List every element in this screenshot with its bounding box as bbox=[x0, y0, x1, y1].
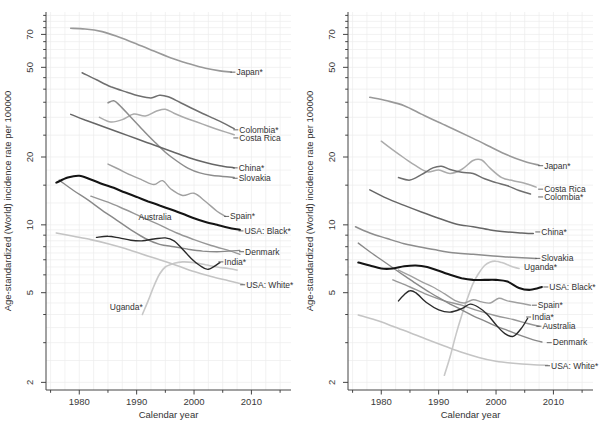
chart-panel-left: 25102050701980199020002010Calendar yearA… bbox=[0, 0, 302, 435]
series-label-slovakia: Slovakia bbox=[541, 253, 573, 263]
series-label-australia: Australia bbox=[542, 321, 575, 331]
y-tick-label: 20 bbox=[24, 152, 35, 163]
series-label-denmark: Denmark bbox=[245, 247, 280, 257]
x-tick-label: 1980 bbox=[371, 396, 392, 407]
x-tick-label: 1980 bbox=[69, 396, 90, 407]
series-label-spain: Spain* bbox=[230, 211, 256, 221]
x-tick-label: 1990 bbox=[428, 396, 449, 407]
right-chart: 25102050701980199020002010Calendar yearA… bbox=[302, 0, 605, 435]
series-label-uganda: Uganda* bbox=[524, 262, 558, 272]
series-label-japan: Japan* bbox=[544, 161, 571, 171]
series-line-china bbox=[71, 114, 235, 167]
series-label-china: China* bbox=[239, 163, 265, 173]
series-label-colombia: Colombia* bbox=[239, 125, 279, 135]
y-axis-title: Age-standardized (World) incidence rate … bbox=[2, 91, 13, 312]
y-tick-label: 50 bbox=[24, 62, 35, 73]
y-tick-label: 10 bbox=[326, 220, 337, 231]
x-tick-label: 2000 bbox=[183, 396, 204, 407]
series-label-colombia: Colombia* bbox=[544, 192, 584, 202]
x-tick-label: 2010 bbox=[543, 396, 564, 407]
y-axis-title: Age-standardized (World) incidence rate … bbox=[304, 91, 315, 312]
series-label-china: China* bbox=[541, 227, 567, 237]
series-label-australia: Australia bbox=[138, 212, 171, 222]
series-label-spain: Spain* bbox=[538, 300, 564, 310]
series-line-costa_rica bbox=[99, 109, 234, 135]
x-tick-label: 2010 bbox=[241, 396, 262, 407]
chart-panel-right: 25102050701980199020002010Calendar yearA… bbox=[302, 0, 604, 435]
series-line-japan bbox=[370, 97, 539, 165]
x-axis-title: Calendar year bbox=[139, 409, 199, 420]
series-label-india: India* bbox=[532, 312, 554, 322]
y-tick-label: 70 bbox=[24, 29, 35, 40]
series-label-japan: Japan* bbox=[236, 67, 263, 77]
tick-labels: 25102050701980199020002010 bbox=[326, 29, 564, 406]
stomach-cancer-incidence-trends-figure: 25102050701980199020002010Calendar yearA… bbox=[0, 0, 605, 435]
series-line-china bbox=[370, 190, 534, 234]
y-tick-label: 10 bbox=[24, 220, 35, 231]
series-label-usa_black: USA: Black* bbox=[549, 282, 596, 292]
series-label-usa_white: USA: White* bbox=[246, 280, 294, 290]
y-tick-label: 50 bbox=[326, 62, 337, 73]
series-label-india: India* bbox=[224, 257, 246, 267]
y-tick-label: 20 bbox=[326, 152, 337, 163]
y-tick-label: 2 bbox=[24, 380, 35, 385]
series-label-uganda: Uganda* bbox=[110, 302, 144, 312]
y-tick-label: 70 bbox=[326, 29, 337, 40]
x-tick-label: 2000 bbox=[485, 396, 506, 407]
series-label-slovakia: Slovakia bbox=[239, 173, 271, 183]
series-label-usa_black: USA: Black* bbox=[244, 226, 291, 236]
y-tick-label: 5 bbox=[24, 290, 35, 295]
x-axis-title: Calendar year bbox=[441, 409, 501, 420]
left-chart: 25102050701980199020002010Calendar yearA… bbox=[0, 0, 302, 435]
series-line-costa_rica bbox=[381, 141, 536, 187]
x-tick-label: 1990 bbox=[126, 396, 147, 407]
series-label-denmark: Denmark bbox=[553, 337, 588, 347]
series-label-usa_white: USA: White* bbox=[551, 361, 599, 371]
y-tick-label: 5 bbox=[326, 290, 337, 295]
y-tick-label: 2 bbox=[326, 380, 337, 385]
